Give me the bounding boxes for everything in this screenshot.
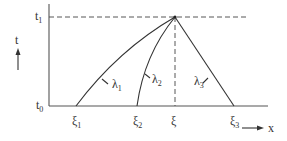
t1-label: t1 [35, 9, 42, 25]
xi2-label: ξ2 [133, 114, 142, 130]
lambda3-label: λ3 [194, 74, 204, 90]
characteristic-lambda3 [175, 17, 234, 106]
x-axis-label: x [268, 121, 274, 135]
xi-label: ξ [171, 114, 177, 128]
xi3-label: ξ3 [230, 114, 239, 130]
x-arrow-head-icon [257, 126, 264, 131]
characteristics-diagram: t x t1 t0 ξ1 ξ2 ξ ξ3 λ1 λ2 λ3 [0, 0, 287, 141]
t-axis-label: t [15, 33, 19, 47]
t0-label: t0 [36, 98, 43, 114]
lambda2-tick [145, 74, 150, 78]
apex-point [173, 15, 176, 18]
t-arrow-head-icon [16, 48, 21, 55]
lambda1-tick [102, 79, 108, 84]
lambda1-label: λ1 [112, 77, 122, 93]
characteristic-lambda2 [137, 17, 175, 106]
characteristic-lambda1 [76, 17, 175, 106]
lambda2-label: λ2 [152, 72, 162, 88]
xi1-label: ξ1 [72, 114, 81, 130]
